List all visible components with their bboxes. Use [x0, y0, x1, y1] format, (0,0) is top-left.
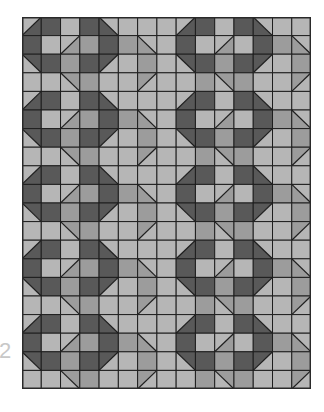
quilt-cell: [138, 352, 157, 371]
quilt-cell: [22, 333, 41, 352]
quilt-cell: [234, 240, 253, 259]
quilt-cell: [157, 222, 176, 241]
quilt-cell: [195, 110, 214, 129]
quilt-cell: [292, 91, 311, 110]
quilt-cell: [234, 166, 253, 185]
quilt-cell: [273, 110, 292, 129]
quilt-cell: [176, 352, 195, 371]
quilt-cell: [118, 110, 137, 129]
quilt-cell: [176, 315, 195, 334]
quilt-cell: [99, 259, 118, 278]
quilt-cell: [176, 222, 195, 241]
quilt-cell: [22, 296, 41, 315]
quilt-cell: [195, 259, 214, 278]
quilt-cell: [61, 110, 80, 129]
quilt-cell: [138, 110, 157, 129]
quilt-cell: [253, 36, 272, 55]
quilt-cell: [61, 166, 80, 185]
quilt-cell: [99, 296, 118, 315]
quilt-cell: [234, 36, 253, 55]
quilt-cell: [118, 54, 137, 73]
quilt-cell: [118, 166, 137, 185]
quilt-cell: [22, 315, 41, 334]
quilt-cell: [61, 370, 80, 389]
quilt-cell: [215, 36, 234, 55]
quilt-cell: [195, 222, 214, 241]
quilt-cell: [80, 54, 99, 73]
quilt-cell: [195, 352, 214, 371]
quilt-cell: [22, 240, 41, 259]
quilt-cell: [157, 166, 176, 185]
quilt-cell: [118, 333, 137, 352]
quilt-cell: [157, 259, 176, 278]
quilt-cell: [80, 17, 99, 36]
quilt-cell: [118, 370, 137, 389]
quilt-cell: [215, 259, 234, 278]
quilt-cell: [118, 73, 137, 92]
quilt-cell: [61, 91, 80, 110]
quilt-cell: [292, 352, 311, 371]
quilt-cell: [138, 259, 157, 278]
quilt-cell: [99, 54, 118, 73]
quilt-cell: [176, 184, 195, 203]
quilt-cell: [99, 73, 118, 92]
quilt-cell: [176, 129, 195, 148]
quilt-cell: [215, 91, 234, 110]
quilt-cell: [176, 54, 195, 73]
quilt-cell: [195, 147, 214, 166]
quilt-cell: [138, 222, 157, 241]
quilt-cell: [80, 129, 99, 148]
quilt-cell: [292, 259, 311, 278]
quilt-cell: [80, 147, 99, 166]
quilt-cell: [253, 147, 272, 166]
quilt-cell: [41, 147, 60, 166]
quilt-cell: [99, 240, 118, 259]
quilt-cell: [41, 333, 60, 352]
quilt-cell: [234, 352, 253, 371]
quilt-cell: [292, 370, 311, 389]
quilt-cell: [292, 17, 311, 36]
quilt-cell: [99, 166, 118, 185]
quilt-cell: [22, 203, 41, 222]
quilt-cell: [99, 370, 118, 389]
quilt-cell: [176, 333, 195, 352]
quilt-cell: [22, 110, 41, 129]
quilt-cell: [176, 259, 195, 278]
quilt-cell: [99, 36, 118, 55]
quilt-cell: [234, 203, 253, 222]
quilt-cell: [118, 184, 137, 203]
quilt-cell: [99, 129, 118, 148]
quilt-cell: [176, 110, 195, 129]
quilt-cell: [22, 184, 41, 203]
quilt-cell: [215, 147, 234, 166]
quilt-cell: [215, 352, 234, 371]
quilt-cell: [157, 333, 176, 352]
quilt-cell: [99, 315, 118, 334]
quilt-cell: [118, 315, 137, 334]
quilt-cell: [253, 203, 272, 222]
quilt-cell: [157, 203, 176, 222]
quilt-cell: [61, 129, 80, 148]
quilt-cell: [195, 296, 214, 315]
quilt-cell: [273, 352, 292, 371]
quilt-cell: [22, 166, 41, 185]
quilt-cell: [41, 222, 60, 241]
quilt-cell: [61, 36, 80, 55]
quilt-cell: [61, 147, 80, 166]
quilt-cell: [61, 277, 80, 296]
quilt-cell: [138, 315, 157, 334]
quilt-cell: [41, 73, 60, 92]
quilt-cell: [292, 315, 311, 334]
quilt-cell: [253, 54, 272, 73]
quilt-cell: [138, 73, 157, 92]
quilt-cell: [138, 333, 157, 352]
quilt-cell: [80, 73, 99, 92]
quilt-cell: [80, 222, 99, 241]
quilt-cell: [215, 110, 234, 129]
quilt-cell: [176, 36, 195, 55]
quilt-cell: [157, 147, 176, 166]
quilt-cell: [118, 147, 137, 166]
quilt-cell: [253, 17, 272, 36]
quilt-grid-svg: [22, 17, 311, 389]
quilt-cell: [138, 296, 157, 315]
